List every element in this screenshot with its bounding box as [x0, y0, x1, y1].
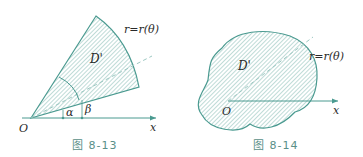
label-x-axis: x: [333, 104, 340, 117]
figure-8-14: [198, 32, 338, 130]
label-x-axis: x: [150, 121, 157, 134]
label-curve: r=r(θ): [124, 23, 159, 36]
label-origin: O: [222, 105, 231, 118]
label-origin: O: [19, 122, 28, 135]
label-region-d: D': [237, 59, 251, 73]
caption-figure-8-13: 图 8-13: [72, 136, 117, 152]
x-axis-arrow-icon: [150, 116, 156, 121]
label-curve: r=r(θ): [309, 50, 344, 63]
diagram-canvas: D' r=r(θ) O x α β D' r=r(θ) O x: [0, 0, 363, 157]
blob-region: [198, 32, 317, 130]
caption-figure-8-14: 图 8-14: [253, 136, 298, 152]
x-axis-arrow-icon: [332, 99, 338, 104]
label-beta: β: [84, 103, 91, 116]
label-region-d: D': [89, 52, 103, 66]
label-alpha: α: [66, 106, 74, 119]
